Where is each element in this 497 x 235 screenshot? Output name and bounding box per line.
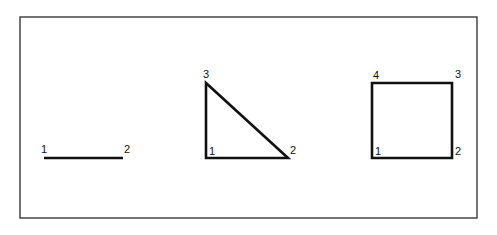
triangle-vertex-label-1: 1 — [209, 145, 215, 157]
right-triangle-path — [206, 83, 288, 158]
figure-right-triangle[interactable]: 3 1 2 — [203, 68, 296, 158]
triangle-vertex-label-2: 2 — [290, 144, 296, 156]
triangle-vertex-label-3: 3 — [203, 68, 209, 80]
square-path — [372, 83, 452, 158]
line-segment-vertex-label-2: 2 — [124, 143, 130, 155]
line-segment-vertex-label-1: 1 — [41, 143, 47, 155]
figure-line-segment[interactable]: 1 2 — [41, 143, 130, 158]
square-vertex-label-4: 4 — [373, 69, 379, 81]
square-vertex-label-3: 3 — [455, 68, 461, 80]
geometry-diagram: 1 2 3 1 2 4 3 2 1 — [0, 0, 497, 235]
geometry-figure-canvas: 1 2 3 1 2 4 3 2 1 — [0, 0, 497, 235]
figure-square[interactable]: 4 3 2 1 — [372, 68, 461, 158]
outer-frame-border — [20, 17, 477, 218]
square-vertex-label-1: 1 — [375, 145, 381, 157]
square-vertex-label-2: 2 — [455, 145, 461, 157]
